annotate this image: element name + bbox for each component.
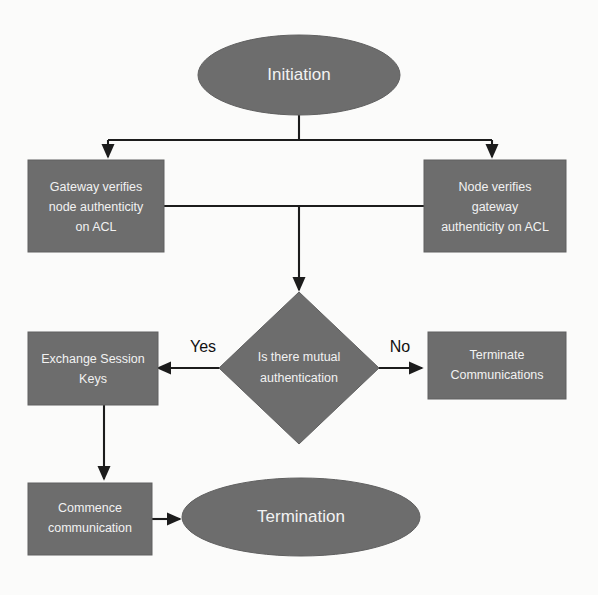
node-terminate-communications[interactable]: Terminate Communications	[428, 332, 566, 399]
edge-label-no: No	[390, 338, 411, 355]
edge-verify-join	[164, 206, 424, 290]
terminate-communications-box	[428, 332, 566, 399]
node-verifies-label-line2: gateway	[472, 200, 519, 214]
node-commence-communication[interactable]: Commence communication	[28, 483, 152, 555]
gateway-verifies-label-line2: node authenticity	[49, 200, 144, 214]
node-verifies-label-line3: authenticity on ACL	[441, 220, 549, 234]
node-mutual-auth-decision[interactable]: Is there mutual authentication	[219, 292, 379, 444]
node-verifies-label-line1: Node verifies	[459, 180, 532, 194]
node-gateway-verifies[interactable]: Gateway verifies node authenticity on AC…	[28, 160, 164, 252]
edge-decision-to-exchange: Yes	[158, 338, 221, 368]
commence-communication-box	[28, 483, 152, 555]
mutual-auth-diamond	[219, 292, 379, 444]
edge-decision-to-terminate: No	[378, 338, 422, 368]
node-exchange-session-keys[interactable]: Exchange Session Keys	[28, 332, 158, 405]
flowchart-svg: Yes No Initiation Gateway verifies node …	[0, 0, 598, 595]
terminate-communications-label-line2: Communications	[450, 368, 543, 382]
node-node-verifies[interactable]: Node verifies gateway authenticity on AC…	[424, 160, 566, 252]
node-termination[interactable]: Termination	[182, 478, 420, 556]
exchange-session-keys-box	[28, 332, 158, 405]
gateway-verifies-label-line1: Gateway verifies	[50, 180, 142, 194]
terminate-communications-label-line1: Terminate	[470, 348, 525, 362]
flowchart-canvas: Yes No Initiation Gateway verifies node …	[0, 0, 598, 595]
exchange-session-keys-label-line2: Keys	[79, 372, 107, 386]
exchange-session-keys-label-line1: Exchange Session	[41, 352, 145, 366]
commence-communication-label-line1: Commence	[58, 501, 122, 515]
mutual-auth-label-line1: Is there mutual	[258, 350, 341, 364]
edge-label-yes: Yes	[190, 338, 216, 355]
termination-label: Termination	[257, 507, 345, 526]
mutual-auth-label-line2: authentication	[260, 371, 338, 385]
gateway-verifies-label-line3: on ACL	[75, 220, 116, 234]
edge-initiation-split	[108, 115, 492, 157]
node-initiation[interactable]: Initiation	[198, 35, 400, 115]
initiation-label: Initiation	[267, 65, 330, 84]
commence-communication-label-line2: communication	[48, 521, 132, 535]
